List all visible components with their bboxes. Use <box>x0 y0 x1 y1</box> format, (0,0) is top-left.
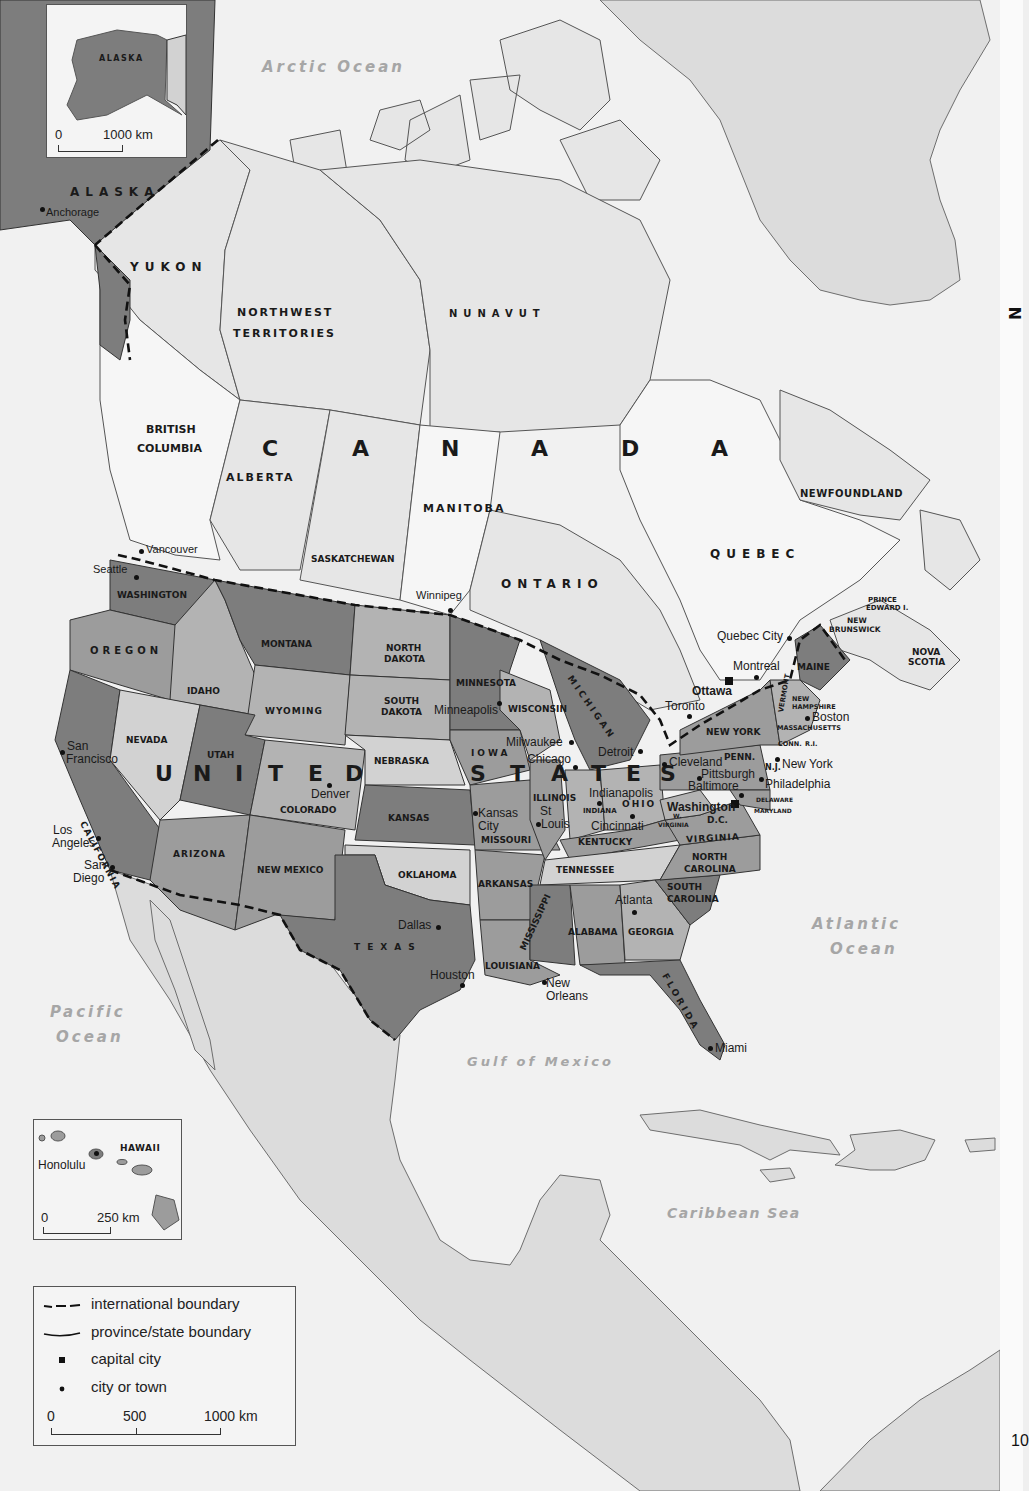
city-washington: Washington <box>667 801 735 814</box>
label-alaska: ALASKA <box>70 186 159 199</box>
label-nwt-2: TERRITORIES <box>233 328 336 340</box>
hawaii-inset-label: HAWAII <box>120 1144 160 1154</box>
legend-scale-start: 0 <box>47 1408 55 1424</box>
city-la-1: Los <box>53 824 72 837</box>
city-cincinnati: Cincinnati <box>591 820 644 833</box>
label-penn: PENN. <box>724 753 755 763</box>
label-conn: CONN. <box>778 741 802 748</box>
label-new-mexico: NEW MEXICO <box>257 866 323 876</box>
city-dot-honolulu <box>94 1151 99 1156</box>
city-new-orleans-2: Orleans <box>546 990 588 1003</box>
label-nova-scotia-2: SCOTIA <box>908 658 945 668</box>
usa-letter: T <box>510 762 525 786</box>
label-washington: WASHINGTON <box>117 591 187 601</box>
city-dot-winnipeg <box>448 608 453 613</box>
label-alberta: ALBERTA <box>226 472 295 484</box>
label-pei-2: EDWARD I. <box>866 605 908 613</box>
city-la-2: Angeles <box>52 837 95 850</box>
legend-symbols <box>42 1295 92 1405</box>
label-alabama: ALABAMA <box>568 928 617 938</box>
label-massachusetts: MASSACHUSETTS <box>777 725 841 732</box>
city-st-louis-2: Louis <box>541 818 570 831</box>
city-dot-milwaukee <box>569 740 574 745</box>
label-south-carolina-2: CAROLINA <box>667 895 719 905</box>
city-seattle: Seattle <box>93 564 127 576</box>
page-number: 10 <box>1011 1432 1029 1450</box>
label-saskatchewan: SASKATCHEWAN <box>311 555 395 565</box>
label-kansas: KANSAS <box>388 814 429 824</box>
city-baltimore: Baltimore <box>688 780 739 793</box>
legend-item-capital-city: capital city <box>91 1350 161 1367</box>
label-missouri: MISSOURI <box>481 836 531 846</box>
label-texas: TEXAS <box>354 943 422 953</box>
city-quebec-city: Quebec City <box>717 630 783 643</box>
city-st-louis-1: St <box>540 805 551 818</box>
label-delaware: DELAWARE <box>756 797 793 804</box>
city-miami: Miami <box>715 1042 747 1055</box>
label-bc-2: COLUMBIA <box>137 443 202 455</box>
alaska-scale-bar <box>58 145 123 152</box>
city-dot-houston <box>460 983 465 988</box>
city-dot-philadelphia <box>759 777 764 782</box>
usa-letter: U <box>155 762 173 786</box>
label-manitoba: MANITOBA <box>423 503 506 515</box>
canada-letter: D <box>621 437 639 461</box>
usa-letter: I <box>235 762 243 786</box>
label-nevada: NEVADA <box>126 736 167 746</box>
city-dallas: Dallas <box>398 919 431 932</box>
usa-letter: S <box>470 762 486 786</box>
label-north-carolina-2: CAROLINA <box>684 865 736 875</box>
canada-letter: A <box>711 437 728 461</box>
label-north-dakota-2: DAKOTA <box>384 655 425 665</box>
label-oklahoma: OKLAHOMA <box>398 871 456 881</box>
city-minneapolis: Minneapolis <box>434 704 498 717</box>
label-georgia: GEORGIA <box>628 928 674 938</box>
label-quebec: QUEBEC <box>710 548 800 561</box>
label-ri: R.I. <box>805 741 817 748</box>
city-kansas-city-2: City <box>478 820 499 833</box>
label-maine: MAINE <box>797 663 830 673</box>
label-arizona: ARIZONA <box>173 850 226 860</box>
city-philadelphia: Philadelphia <box>765 778 830 791</box>
label-wisconsin: WISCONSIN <box>508 705 567 715</box>
city-dot-anchorage <box>40 207 45 212</box>
city-detroit: Detroit <box>598 746 633 759</box>
alaska-inset: ALASKA 0 1000 km <box>46 4 187 158</box>
label-indiana: INDIANA <box>583 808 617 816</box>
alaska-scale-start: 0 <box>55 127 62 142</box>
city-ottawa: Ottawa <box>692 685 732 698</box>
city-milwaukee: Milwaukee <box>506 736 563 749</box>
solid-line-icon <box>44 1333 80 1336</box>
canada-letter: A <box>531 437 548 461</box>
usa-letter: N <box>193 762 211 786</box>
label-west-virginia-2: VIRGINIA <box>658 822 689 829</box>
usa-letter: E <box>308 762 323 786</box>
city-vancouver: Vancouver <box>146 544 198 556</box>
hawaii-inset: HAWAII Honolulu 0 250 km <box>33 1119 182 1240</box>
usa-letter: E <box>626 762 641 786</box>
dot-icon <box>60 1387 65 1392</box>
atlantic-ocean-label-2: Ocean <box>830 940 898 960</box>
label-idaho: IDAHO <box>187 687 220 697</box>
dashed-line-icon <box>44 1305 80 1307</box>
label-new-brunswick-2: BRUNSWICK <box>829 626 881 634</box>
square-icon <box>59 1357 65 1363</box>
label-colorado: COLORADO <box>280 806 336 816</box>
label-wyoming: WYOMING <box>265 707 323 717</box>
label-new-york: NEW YORK <box>706 728 761 738</box>
city-dot-seattle <box>134 575 139 580</box>
city-new-york: New York <box>782 758 833 771</box>
page-margin <box>1000 0 1023 1491</box>
city-sd-1: San <box>84 859 105 872</box>
legend-scale-end: 1000 km <box>204 1408 258 1424</box>
city-dot-baltimore <box>739 793 744 798</box>
label-montana: MONTANA <box>261 640 312 650</box>
label-minnesota: MINNESOTA <box>456 679 516 689</box>
label-illinois: ILLINOIS <box>533 794 576 804</box>
city-dot-vancouver <box>139 549 144 554</box>
label-ohio: OHIO <box>622 800 656 810</box>
caribbean-sea-label: Caribbean Sea <box>667 1204 801 1222</box>
legend: international boundary province/state bo… <box>33 1286 296 1446</box>
side-title-fragment: N <box>1006 307 1025 320</box>
city-honolulu: Honolulu <box>38 1159 85 1172</box>
